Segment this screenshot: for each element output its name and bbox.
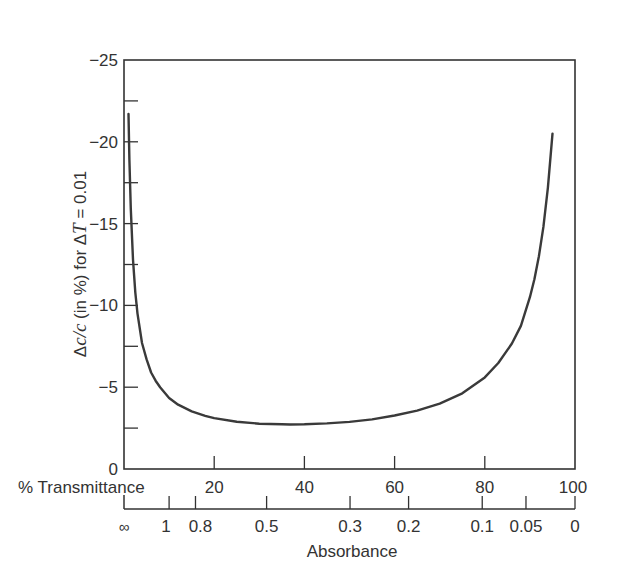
absorbance-tick-label: 1 [161, 517, 170, 536]
absorbance-tick-label: 0.05 [509, 517, 542, 536]
x-axis-transmittance: 20406080100 [205, 456, 587, 497]
absorbance-tick-label: ∞ [119, 518, 130, 535]
x-tick-label: 100 [559, 478, 587, 497]
y-tick-label: −10 [89, 296, 118, 315]
y-tick-label: −5 [99, 378, 118, 397]
ylabel-mid: (in %) for Δ [71, 234, 90, 324]
absorbance-tick-label: 0.3 [338, 517, 362, 536]
y-tick-label: 0 [109, 460, 118, 479]
x-tick-label: 60 [385, 478, 404, 497]
ylabel-tail: = 0.01 [71, 171, 90, 223]
absorbance-tick-label: 0.8 [189, 517, 213, 536]
x-axis-title-transmittance: % Transmittance [18, 478, 145, 497]
absorbance-tick-label: 0.2 [397, 517, 421, 536]
y-tick-label: −15 [89, 215, 118, 234]
absorbance-tick-label: 0.1 [470, 517, 494, 536]
plot-frame [124, 60, 575, 469]
x-axis-title-absorbance: Absorbance [307, 542, 398, 561]
y-axis: −25−20−15−10−50 [89, 51, 138, 479]
x-tick-label: 20 [205, 478, 224, 497]
ylabel-delta: Δ [71, 346, 90, 357]
y-tick-label: −20 [89, 133, 118, 152]
y-axis-title: Δc/c (in %) for ΔT = 0.01 [69, 171, 90, 357]
x-axis-absorbance: ∞10.80.50.30.20.10.050 [119, 495, 580, 536]
x-tick-label: 40 [295, 478, 314, 497]
chart: −25−20−15−10−50 20406080100 ∞10.80.50.30… [0, 0, 617, 566]
absorbance-tick-label: 0.5 [255, 517, 279, 536]
data-curve [129, 114, 553, 425]
absorbance-tick-label: 0 [570, 517, 579, 536]
x-tick-label: 80 [475, 478, 494, 497]
y-tick-label: −25 [89, 51, 118, 70]
